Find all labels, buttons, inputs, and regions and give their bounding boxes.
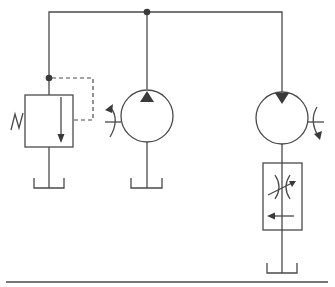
pressure-line xyxy=(46,9,282,95)
orifice-left xyxy=(275,175,279,199)
relief-valve xyxy=(11,78,93,188)
junction-dot-left xyxy=(46,75,53,82)
flow-arrow-icon xyxy=(58,134,65,143)
check-arrow-icon xyxy=(267,213,275,220)
junction-dot-top xyxy=(144,9,151,16)
spring-icon xyxy=(11,113,23,130)
orifice-right xyxy=(286,175,290,199)
hydraulic-circuit-diagram xyxy=(0,0,335,287)
pump xyxy=(105,90,173,188)
adjust-arrow-icon xyxy=(268,182,294,195)
pump-triangle-icon xyxy=(140,91,154,102)
motor-triangle-icon xyxy=(275,93,289,104)
